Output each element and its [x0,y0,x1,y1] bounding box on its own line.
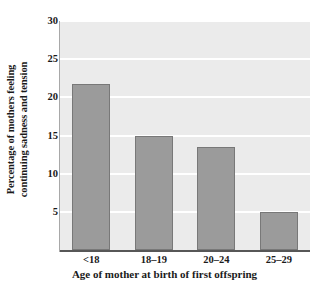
bar [260,212,298,250]
y-axis-tick-label: 25 [34,54,58,64]
y-axis-line [59,21,60,252]
x-axis-title: Age of mother at birth of first offsprin… [0,268,329,280]
gridline [60,21,310,22]
x-axis-line [60,250,310,252]
bar [197,147,235,250]
y-axis-title: Percentage of mothers feeling continuing… [0,0,36,258]
x-axis-tick-label: 20–24 [185,254,248,265]
y-axis-title-text: Percentage of mothers feeling continuing… [6,61,31,197]
y-axis-tick-label: 15 [34,131,58,141]
y-axis-tick-label: 20 [34,92,58,102]
x-axis-tick-label: 18–19 [123,254,186,265]
bar-chart-figure: Percentage of mothers feeling continuing… [0,0,329,286]
y-axis-tick-labels: 51015202530 [32,0,58,286]
gridline [60,58,310,60]
y-axis-tick-label: 30 [34,16,58,26]
x-axis-tick-label: 25–29 [248,254,311,265]
y-axis-tick-label: 10 [34,169,58,179]
plot-area [60,21,310,250]
bar [72,84,110,250]
bar [135,136,173,251]
y-axis-title-line-2: continuing sadness and tension [18,61,31,197]
x-axis-tick-label: <18 [60,254,123,265]
y-axis-title-line-1: Percentage of mothers feeling [6,61,19,197]
x-axis-tick-labels: <1818–1920–2425–29 [60,254,310,268]
y-axis-tick-label: 5 [34,207,58,217]
